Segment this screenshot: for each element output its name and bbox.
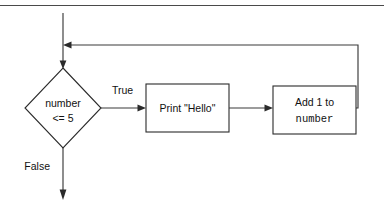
true-branch-arrowhead bbox=[138, 105, 147, 112]
print-to-increment-arrowhead bbox=[265, 105, 274, 112]
process-increment-line-1: Add 1 to bbox=[295, 96, 334, 108]
edge-label-false: False bbox=[24, 160, 50, 172]
loopback-arrowhead bbox=[63, 42, 72, 49]
process-print-label: Print "Hello" bbox=[160, 102, 216, 114]
flowchart-canvas: number <= 5 True False Print "Hello" Add… bbox=[0, 0, 384, 214]
process-increment-line-2: number bbox=[296, 113, 334, 125]
decision-line-2: <= 5 bbox=[52, 112, 73, 124]
decision-line-1: number bbox=[45, 97, 81, 109]
process-increment bbox=[273, 86, 356, 134]
flowchart-svg: number <= 5 True False Print "Hello" Add… bbox=[0, 0, 384, 214]
false-branch-arrowhead bbox=[60, 190, 67, 201]
edge-label-true: True bbox=[112, 84, 133, 96]
